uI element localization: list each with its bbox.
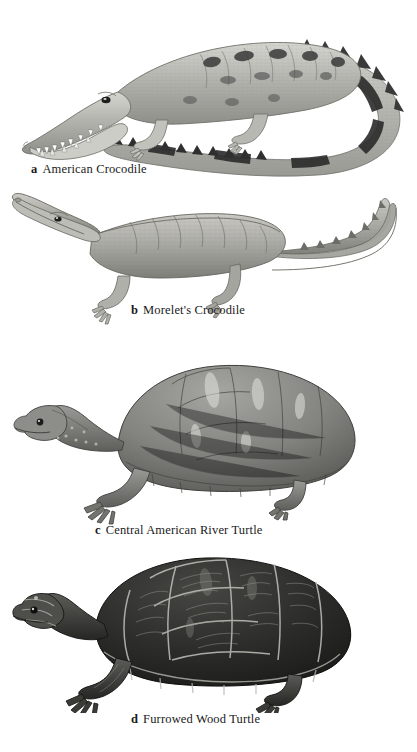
figure-furrowed-wood-turtle	[0, 548, 417, 713]
figure-label-b: Morelet's Crocodile	[143, 303, 245, 317]
turtle-d-head	[13, 593, 108, 639]
figure-label-d: Furrowed Wood Turtle	[143, 712, 260, 726]
turtle-d-carapace	[96, 558, 351, 695]
figure-caption-d: dFurrowed Wood Turtle	[131, 712, 260, 727]
figure-central-american-river-turtle	[0, 350, 417, 525]
illustration-plate: aAmerican Crocodile	[0, 0, 417, 752]
figure-label-c: Central American River Turtle	[106, 523, 263, 537]
figure-label-a: American Crocodile	[42, 162, 146, 176]
croc-a-body	[118, 42, 361, 124]
croc-b-head	[12, 193, 100, 241]
turtle-c-head	[14, 405, 124, 451]
croc-b-tail	[266, 199, 396, 270]
figure-letter-d: d	[131, 712, 138, 726]
figure-letter-b: b	[131, 303, 138, 317]
figure-letter-c: c	[95, 523, 101, 537]
turtle-c-carapace	[118, 365, 355, 497]
figure-caption-a: aAmerican Crocodile	[31, 162, 147, 177]
croc-b-body	[90, 214, 285, 278]
figure-caption-c: cCentral American River Turtle	[95, 523, 262, 538]
figure-letter-a: a	[31, 162, 37, 176]
turtle-c-front-limb	[84, 468, 150, 524]
figure-american-crocodile	[0, 14, 417, 179]
turtle-d-front-limb	[66, 658, 132, 713]
figure-caption-b: bMorelet's Crocodile	[131, 303, 245, 318]
